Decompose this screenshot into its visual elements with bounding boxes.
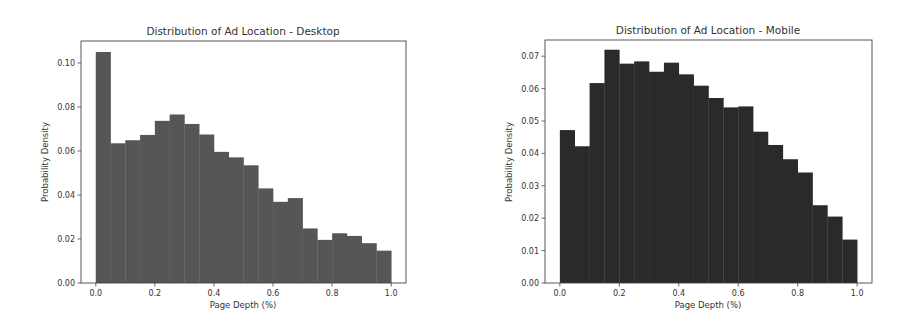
histogram-bar	[155, 121, 170, 283]
histogram-bar	[214, 152, 229, 283]
histogram-bar	[111, 143, 126, 283]
histogram-bar	[170, 114, 185, 283]
chart-title: Distribution of Ad Location - Desktop	[146, 25, 340, 37]
y-tick-label: 0.07	[521, 52, 539, 61]
histogram-bar	[575, 146, 590, 283]
histogram-bar	[709, 98, 724, 283]
histogram-bar	[273, 202, 288, 283]
histogram-bar	[317, 240, 332, 283]
histogram-bar	[649, 72, 664, 283]
x-tick-label: 0.8	[326, 289, 339, 298]
histogram-bar	[332, 233, 347, 283]
histogram-bar	[258, 188, 273, 283]
y-ticks: 0.000.020.040.060.080.10	[57, 59, 81, 288]
x-ticks: 0.00.20.40.60.81.0	[89, 283, 397, 298]
y-tick-label: 0.06	[57, 147, 75, 156]
histogram-bar	[140, 135, 155, 283]
histogram-bar	[798, 173, 813, 283]
y-tick-label: 0.02	[57, 235, 75, 244]
x-axis-label: Page Depth (%)	[210, 300, 277, 310]
bars	[560, 50, 858, 283]
histogram-bar	[679, 74, 694, 283]
desktop-chart: Distribution of Ad Location - Desktop 0.…	[40, 25, 406, 310]
x-ticks: 0.00.20.40.60.81.0	[553, 283, 863, 298]
histogram-bar	[244, 165, 259, 283]
histogram-bar	[96, 52, 111, 283]
y-tick-label: 0.04	[521, 149, 539, 158]
histogram-bar	[288, 198, 303, 283]
histogram-bar	[694, 86, 709, 283]
x-tick-label: 0.8	[791, 289, 804, 298]
histogram-bar	[753, 132, 768, 283]
histogram-bar	[664, 63, 679, 283]
histogram-bar	[738, 106, 753, 283]
y-axis-label: Probability Density	[504, 122, 514, 202]
histogram-bar	[560, 130, 575, 283]
x-tick-label: 0.0	[89, 289, 102, 298]
x-tick-label: 0.4	[208, 289, 221, 298]
histogram-bar	[619, 64, 634, 283]
x-tick-label: 0.4	[672, 289, 685, 298]
histogram-bar	[590, 83, 605, 283]
histogram-bar	[783, 159, 798, 283]
x-tick-label: 0.2	[613, 289, 626, 298]
histogram-bar	[634, 61, 649, 283]
histogram-bar	[199, 135, 214, 284]
histogram-bar	[842, 240, 857, 283]
y-tick-label: 0.08	[57, 103, 75, 112]
x-tick-label: 0.6	[732, 289, 745, 298]
y-tick-label: 0.00	[521, 279, 539, 288]
mobile-chart: Distribution of Ad Location - Mobile 0.0…	[504, 24, 872, 310]
y-tick-label: 0.00	[57, 279, 75, 288]
histogram-bar	[229, 157, 244, 283]
y-tick-label: 0.04	[57, 191, 75, 200]
x-axis-label: Page Depth (%)	[675, 300, 742, 310]
histogram-bar	[303, 228, 318, 283]
bars	[96, 52, 392, 283]
y-tick-label: 0.10	[57, 59, 75, 68]
histogram-bar	[376, 251, 391, 283]
y-tick-label: 0.05	[521, 117, 539, 126]
x-tick-label: 0.0	[553, 289, 566, 298]
x-tick-label: 0.2	[148, 289, 161, 298]
histogram-bar	[347, 236, 362, 283]
x-tick-label: 1.0	[851, 289, 864, 298]
histogram-bar	[604, 50, 619, 283]
histogram-bar	[125, 140, 140, 283]
histogram-bar	[723, 107, 738, 283]
y-ticks: 0.000.010.020.030.040.050.060.07	[521, 52, 545, 288]
charts-canvas: Distribution of Ad Location - Desktop 0.…	[0, 0, 914, 332]
histogram-bar	[768, 145, 783, 283]
histogram-bar	[362, 243, 377, 283]
x-tick-label: 0.6	[267, 289, 280, 298]
histogram-bar	[813, 205, 828, 283]
x-tick-label: 1.0	[385, 289, 398, 298]
y-tick-label: 0.03	[521, 182, 539, 191]
y-tick-label: 0.06	[521, 85, 539, 94]
y-tick-label: 0.01	[521, 247, 539, 256]
histogram-bar	[184, 124, 199, 283]
chart-title: Distribution of Ad Location - Mobile	[616, 24, 800, 36]
y-axis-label: Probability Density	[40, 122, 50, 202]
histogram-bar	[827, 217, 842, 283]
y-tick-label: 0.02	[521, 214, 539, 223]
